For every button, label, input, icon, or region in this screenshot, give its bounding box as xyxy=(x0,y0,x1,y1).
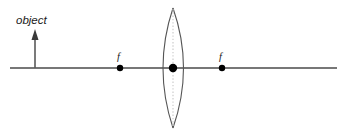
focal-point-right-marker xyxy=(219,65,225,71)
focal-point-left-marker xyxy=(117,65,123,71)
focal-label-right: f xyxy=(219,51,224,62)
object-arrow-head xyxy=(32,29,39,40)
optics-diagram-canvas: object f f xyxy=(0,0,347,135)
object-label: object xyxy=(16,14,47,26)
focal-label-left: f xyxy=(117,51,122,62)
lens-center-marker xyxy=(169,64,177,72)
optics-svg-stage: object f f xyxy=(0,0,347,135)
